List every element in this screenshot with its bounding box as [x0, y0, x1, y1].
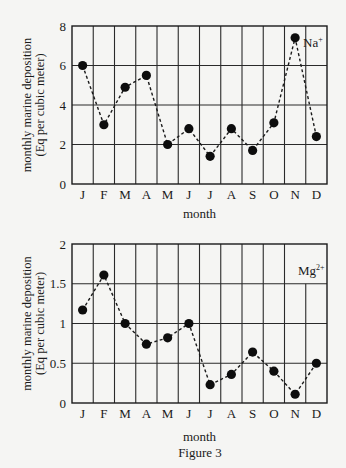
y-tick-label: 0.5 — [50, 356, 66, 371]
x-tick-label: J — [186, 406, 191, 421]
data-point-marker — [121, 319, 130, 328]
x-tick-label: J — [208, 406, 213, 421]
figure-3: 02468 JFMAMJJASOND Na+ month monthly mar… — [0, 0, 346, 468]
y-tick-label: 6 — [60, 58, 67, 73]
data-point-marker — [163, 333, 172, 342]
mg-chart-y-tick-labels: 00.511.52 — [50, 237, 66, 411]
na-chart-y-tick-labels: 02468 — [60, 19, 67, 192]
na-chart: 02468 JFMAMJJASOND Na+ month monthly mar… — [20, 19, 327, 222]
x-tick-label: N — [290, 406, 300, 421]
data-point-marker — [269, 367, 278, 376]
na-series-label: Na+ — [303, 35, 323, 50]
y-tick-label: 0 — [60, 396, 67, 411]
x-tick-label: J — [208, 187, 213, 202]
mg-chart: 00.511.52 JFMAMJJASOND Mg2+ month monthl… — [20, 237, 327, 445]
data-point-marker — [227, 124, 236, 133]
mg-series-label: Mg2+ — [298, 263, 325, 278]
data-point-marker — [78, 305, 87, 314]
data-point-marker — [99, 120, 108, 129]
y-tick-label: 2 — [60, 237, 67, 252]
mg-chart-grid — [72, 244, 327, 403]
x-tick-label: A — [227, 406, 237, 421]
figure-canvas: 02468 JFMAMJJASOND Na+ month monthly mar… — [0, 0, 346, 468]
x-tick-label: J — [80, 406, 85, 421]
data-point-marker — [142, 71, 151, 80]
figure-caption: Figure 3 — [178, 445, 222, 460]
data-point-marker — [142, 340, 151, 349]
y-tick-label: 4 — [60, 98, 67, 113]
x-tick-label: A — [227, 187, 237, 202]
y-tick-label: 8 — [60, 19, 67, 34]
y-tick-label: 1 — [60, 316, 67, 331]
x-tick-label: O — [269, 187, 278, 202]
na-chart-y-axis-label-line1: monthly marine deposition — [20, 37, 34, 172]
na-chart-x-axis-label: month — [183, 206, 217, 221]
data-point-marker — [121, 83, 130, 92]
mg-chart-y-axis-label-line1: monthly marine deposition — [20, 255, 34, 390]
y-tick-label: 0 — [60, 177, 67, 192]
data-point-marker — [248, 146, 257, 155]
data-point-marker — [206, 380, 215, 389]
na-chart-y-axis-label: monthly marine deposition (Eq per cubic … — [20, 37, 47, 172]
x-tick-label: N — [290, 187, 300, 202]
data-point-marker — [163, 140, 172, 149]
x-tick-label: J — [80, 187, 85, 202]
mg-chart-y-axis-label-line2: (Eq per cubic meter) — [33, 272, 47, 375]
y-tick-label: 1.5 — [50, 276, 66, 291]
data-point-marker — [312, 359, 321, 368]
data-point-marker — [184, 124, 193, 133]
x-tick-label: M — [119, 406, 131, 421]
data-point-marker — [269, 118, 278, 127]
mg-chart-x-axis-label: month — [183, 429, 217, 444]
x-tick-label: F — [100, 406, 107, 421]
x-tick-label: A — [142, 187, 152, 202]
data-point-marker — [184, 319, 193, 328]
x-tick-label: S — [249, 187, 256, 202]
x-tick-label: J — [186, 187, 191, 202]
mg-chart-x-tick-labels: JFMAMJJASOND — [80, 406, 321, 421]
data-point-marker — [291, 390, 300, 399]
na-chart-y-axis-label-line2: (Eq per cubic meter) — [33, 53, 47, 156]
y-tick-label: 2 — [60, 137, 67, 152]
data-point-marker — [78, 61, 87, 70]
x-tick-label: S — [249, 406, 256, 421]
x-tick-label: A — [142, 406, 152, 421]
data-point-marker — [291, 33, 300, 42]
x-tick-label: O — [269, 406, 278, 421]
mg-chart-y-axis-label: monthly marine deposition (Eq per cubic … — [20, 255, 47, 390]
na-chart-x-tick-labels: JFMAMJJASOND — [80, 187, 321, 202]
data-point-marker — [99, 270, 108, 279]
data-point-marker — [206, 152, 215, 161]
data-point-marker — [312, 132, 321, 141]
x-tick-label: F — [100, 187, 107, 202]
data-point-marker — [248, 348, 257, 357]
data-point-marker — [227, 370, 236, 379]
x-tick-label: D — [312, 187, 321, 202]
x-tick-label: D — [312, 406, 321, 421]
x-tick-label: M — [162, 187, 174, 202]
x-tick-label: M — [162, 406, 174, 421]
na-chart-grid — [72, 26, 327, 184]
x-tick-label: M — [119, 187, 131, 202]
